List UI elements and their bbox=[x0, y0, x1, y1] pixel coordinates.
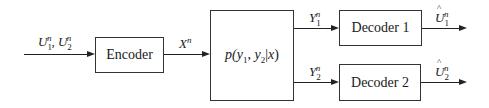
output-2-line bbox=[421, 82, 460, 83]
input-arrowhead bbox=[87, 51, 95, 57]
output-1-label: U1n bbox=[435, 10, 448, 28]
encoder-block: Encoder bbox=[95, 37, 164, 73]
decoder-2-block: Decoder 2 bbox=[339, 64, 421, 101]
encoder-label: Encoder bbox=[106, 47, 153, 63]
input-signal-label: U1n, U2n bbox=[38, 34, 71, 52]
y2-label: Y2n bbox=[309, 64, 320, 82]
y1-arrowhead bbox=[331, 25, 339, 31]
encoder-output-line bbox=[164, 54, 203, 55]
output-1-arrowhead bbox=[459, 25, 467, 31]
encoder-output-arrowhead bbox=[202, 51, 210, 57]
decoder-1-label: Decoder 1 bbox=[352, 20, 410, 36]
input-arrow-line bbox=[24, 54, 88, 55]
channel-block: p(y1, y2|x) bbox=[210, 10, 294, 101]
y1-label: Y1n bbox=[309, 10, 320, 28]
channel-label: p(y1, y2|x) bbox=[225, 47, 279, 65]
output-2-label: U2n bbox=[435, 64, 448, 82]
y2-arrowhead bbox=[331, 79, 339, 85]
output-2-arrowhead bbox=[459, 79, 467, 85]
encoder-output-label: Xn bbox=[179, 36, 191, 50]
decoder-2-label: Decoder 2 bbox=[351, 75, 409, 91]
y1-line bbox=[294, 28, 332, 29]
y2-line bbox=[294, 82, 332, 83]
output-1-line bbox=[422, 28, 460, 29]
decoder-1-block: Decoder 1 bbox=[339, 10, 422, 46]
